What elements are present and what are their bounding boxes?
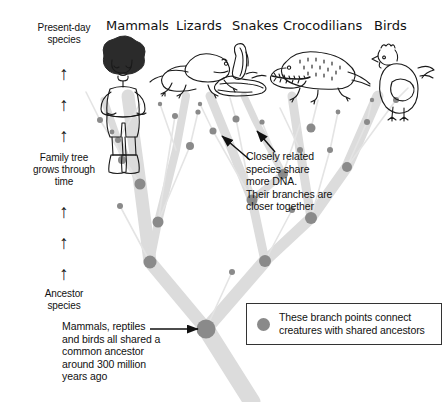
legend-branch-point-dot-icon — [257, 318, 270, 331]
legend-line-1: These branch points connect — [279, 311, 425, 324]
legend-text: These branch points connect creatures wi… — [279, 311, 425, 337]
axis-middle-label: Family tree grows through time — [12, 152, 116, 188]
closely-related-line-3: more DNA. — [246, 175, 350, 188]
closely-related-line-1: Closely related — [246, 150, 350, 163]
closely-related-callout: Closely related species share more DNA. … — [246, 150, 350, 213]
species-label-mammals: Mammals — [106, 18, 169, 33]
species-label-birds: Birds — [374, 18, 407, 33]
closely-related-line-5: closer together — [246, 200, 350, 213]
axis-middle-label-line2: grows through — [12, 164, 116, 176]
axis-bottom-label-line1: Ancestor — [18, 288, 110, 300]
axis-arrow-6: ↑ — [18, 258, 110, 289]
common-ancestor-line-4: around 300 million — [62, 358, 174, 371]
axis-top-label: Present-day species — [18, 22, 110, 46]
axis-arrow-4: ↑ — [18, 196, 110, 227]
species-label-crocodilians: Crocodilians — [283, 18, 362, 33]
common-ancestor-line-1: Mammals, reptiles — [62, 320, 174, 333]
common-ancestor-callout: Mammals, reptiles and birds all shared a… — [62, 320, 174, 383]
closely-related-line-4: Their branches are — [246, 188, 350, 201]
axis-arrow-5: ↑ — [18, 227, 110, 258]
common-ancestor-line-3: common ancestor — [62, 345, 174, 358]
species-label-snakes: Snakes — [232, 18, 278, 33]
common-ancestor-line-2: and birds all shared a — [62, 333, 174, 346]
legend-line-2: creatures with shared ancestors — [279, 324, 425, 337]
closely-related-line-2: species share — [246, 163, 350, 176]
diagram-canvas: Mammals Lizards Snakes Crocodilians Bird… — [0, 0, 444, 402]
callout-arrow-right — [257, 131, 275, 152]
axis-arrows-lower: ↑ ↑ ↑ — [18, 196, 110, 289]
axis-bottom-label: Ancestor species — [18, 288, 110, 312]
axis-middle-label-line3: time — [12, 176, 116, 188]
axis-middle-label-line1: Family tree — [12, 152, 116, 164]
common-ancestor-line-5: years ago — [62, 370, 174, 383]
axis-top-label-line1: Present-day — [18, 22, 110, 34]
legend-box: These branch points connect creatures wi… — [246, 303, 442, 345]
axis-arrow-3: ↑ — [18, 120, 110, 151]
axis-bottom-label-line2: species — [18, 300, 110, 312]
axis-arrows-upper: ↑ ↑ ↑ — [18, 58, 110, 151]
axis-arrow-1: ↑ — [18, 58, 110, 89]
axis-top-label-line2: species — [18, 34, 110, 46]
species-label-lizards: Lizards — [176, 18, 222, 33]
axis-arrow-2: ↑ — [18, 89, 110, 120]
